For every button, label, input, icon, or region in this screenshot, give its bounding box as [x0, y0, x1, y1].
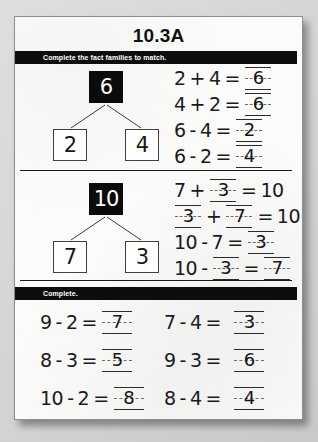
answer-blank[interactable]: 3	[213, 256, 239, 280]
operand-b: 7	[212, 231, 224, 253]
answer-value: 4	[236, 144, 262, 168]
equals-sign: =	[225, 93, 240, 115]
answer-blank[interactable]: 3	[248, 230, 274, 254]
practice-problem: 8 - 3 = 5	[15, 348, 159, 372]
equals-sign: =	[206, 349, 221, 371]
operand-b: 4	[209, 67, 221, 89]
instruction-label: Complete.	[15, 290, 78, 297]
answer-blank[interactable]: 3	[234, 310, 264, 334]
answer-blank[interactable]: 6	[245, 92, 271, 116]
answer-blank[interactable]: 6	[234, 348, 264, 372]
equals-sign: =	[225, 67, 240, 89]
operand-a: 7	[174, 179, 186, 201]
equals-sign: =	[244, 257, 259, 279]
answer-blank[interactable]: 7	[226, 204, 252, 228]
answer-value: 6	[245, 66, 271, 90]
equation-list-1: 2 + 4 = 6 4 + 2 =	[173, 65, 301, 169]
bond-whole-box: 6	[89, 71, 123, 103]
equals-sign: =	[216, 119, 231, 141]
operator: -	[180, 311, 186, 333]
bond-part-right-box: 3	[125, 241, 159, 273]
operand-b: 2	[200, 145, 212, 167]
equals-sign: =	[241, 179, 256, 201]
practice-row: 8 - 3 = 5 9 - 3 =	[15, 341, 302, 379]
practice-problem: 9 - 2 = 7	[15, 310, 159, 334]
operator: +	[190, 67, 205, 89]
equals-sign: =	[227, 231, 242, 253]
operand-a: 8	[164, 387, 176, 409]
operator: -	[180, 349, 186, 371]
result-value: 10	[260, 179, 283, 201]
answer-value: 7	[102, 310, 132, 334]
practice-problem: 9 - 3 = 6	[159, 348, 299, 372]
equals-sign: =	[216, 145, 231, 167]
answer-blank[interactable]: 4	[236, 144, 262, 168]
practice-problem: 10 - 2 = 8	[15, 386, 159, 410]
operand-a: 6	[174, 119, 186, 141]
operand-a: 10	[174, 257, 197, 279]
answer-value: 7	[264, 256, 290, 280]
answer-value: 8	[114, 386, 144, 410]
practice-problem: 8 - 4 = 4	[159, 386, 299, 410]
answer-blank[interactable]: 7	[264, 256, 290, 280]
answer-blank[interactable]: 3	[175, 204, 201, 228]
bond-part-left-box: 2	[53, 129, 87, 161]
result-value: 10	[277, 205, 300, 227]
operator: -	[56, 349, 62, 371]
answer-value: 6	[234, 348, 264, 372]
answer-value: 7	[226, 204, 252, 228]
answer-blank[interactable]: 3	[210, 178, 236, 202]
number-bond-2: 10 7 3	[41, 181, 171, 279]
answer-value: 5	[102, 348, 132, 372]
operand-b: 3	[190, 349, 202, 371]
operator: -	[180, 387, 186, 409]
operator: +	[190, 179, 205, 201]
answer-value: 6	[245, 92, 271, 116]
equals-sign: =	[257, 205, 272, 227]
equation-row: 6 - 2 = 4	[173, 143, 301, 169]
group-divider	[20, 280, 292, 281]
operand-a: 7	[164, 311, 176, 333]
answer-value: 2	[236, 118, 262, 142]
operand-a: 10	[40, 387, 63, 409]
fact-family-group-1: 6 2 4 2 + 4 = 6 4 + 2 =	[15, 65, 302, 169]
answer-value: 3	[175, 204, 201, 228]
equals-sign: =	[206, 311, 221, 333]
instruction-label: Complete the fact families to match.	[15, 54, 166, 61]
answer-blank[interactable]: 2	[236, 118, 262, 142]
answer-blank[interactable]: 4	[234, 386, 264, 410]
equation-row: 4 + 2 = 6	[173, 91, 301, 117]
operand-b: 2	[66, 311, 78, 333]
answer-value: 3	[234, 310, 264, 334]
equation-row: 2 + 4 = 6	[173, 65, 301, 91]
page-title: 10.3A	[15, 25, 302, 47]
bond-whole-box: 10	[89, 183, 123, 215]
answer-value: 3	[248, 230, 274, 254]
instruction-bar-complete: Complete.	[15, 287, 297, 300]
equals-sign: =	[82, 311, 97, 333]
operand-a: 10	[174, 231, 197, 253]
practice-section: 9 - 2 = 7 7 - 4 =	[15, 303, 302, 417]
answer-blank[interactable]: 5	[102, 348, 132, 372]
equals-sign: =	[82, 349, 97, 371]
operator: +	[190, 93, 205, 115]
number-bond-1: 6 2 4	[41, 69, 171, 167]
operand-a: 2	[174, 67, 186, 89]
answer-blank[interactable]: 8	[114, 386, 144, 410]
operand-a: 6	[174, 145, 186, 167]
practice-problem: 7 - 4 = 3	[159, 310, 299, 334]
equation-row: 6 - 4 = 2	[173, 117, 301, 143]
group-divider	[20, 170, 292, 171]
equation-row: 3 + 7 = 10	[173, 203, 301, 229]
operator: +	[206, 205, 221, 227]
operand-b: 3	[66, 349, 78, 371]
operand-b: 4	[200, 119, 212, 141]
answer-blank[interactable]: 7	[102, 310, 132, 334]
answer-blank[interactable]: 6	[245, 66, 271, 90]
fact-family-group-2: 10 7 3 7 + 3 = 10	[15, 177, 302, 281]
operand-b: 2	[209, 93, 221, 115]
equation-row: 10 - 3 = 7	[173, 255, 301, 281]
practice-row: 9 - 2 = 7 7 - 4 =	[15, 303, 302, 341]
bond-part-left-box: 7	[53, 241, 87, 273]
operand-a: 9	[40, 311, 52, 333]
